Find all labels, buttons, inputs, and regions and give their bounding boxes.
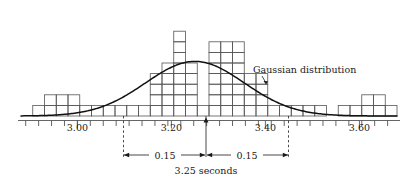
histogram-cell: [362, 95, 374, 106]
histogram-cell: [256, 105, 268, 116]
histogram-cell: [127, 105, 139, 116]
histogram-cell: [233, 95, 245, 106]
histogram-cell: [150, 84, 162, 95]
histogram-cell: [162, 105, 174, 116]
span-label-left: 0.15: [154, 150, 175, 161]
arrow-left-inner: [200, 153, 205, 158]
histogram-cell: [33, 105, 45, 116]
histogram-cell: [115, 105, 127, 116]
histogram-cell: [244, 74, 256, 85]
mean-marker-arrowhead: [204, 118, 209, 123]
histogram-cell: [221, 84, 233, 95]
histogram-cell: [233, 63, 245, 74]
histogram-cell: [374, 95, 386, 106]
histogram-cell: [174, 31, 186, 42]
histogram-cell: [268, 105, 280, 116]
histogram-cell: [162, 84, 174, 95]
x-axis-tick-labels: 3.00 3.20 3.40 3.60: [67, 122, 370, 133]
histogram-cell: [233, 84, 245, 95]
histogram-cell: [174, 105, 186, 116]
arrow-left-outer: [124, 153, 129, 158]
histogram-cell: [209, 42, 221, 53]
histogram-cell: [209, 95, 221, 106]
x-tick-label-320: 3.20: [161, 122, 182, 133]
histogram-cell: [350, 105, 362, 116]
histogram-cell: [233, 42, 245, 53]
center-value-label: 3.25 seconds: [175, 165, 238, 176]
histogram-cell: [362, 105, 374, 116]
histogram-cell: [244, 105, 256, 116]
histogram-cell: [233, 52, 245, 63]
histogram-cell: [186, 95, 198, 106]
histogram-cell: [186, 63, 198, 74]
histogram-cell: [338, 105, 350, 116]
histogram-cell: [174, 74, 186, 85]
histogram-cell: [385, 105, 397, 116]
histogram-cell: [45, 95, 57, 106]
arrow-right-outer: [283, 153, 288, 158]
histogram-cell: [174, 42, 186, 53]
histogram-cell: [221, 95, 233, 106]
histogram-cell: [209, 105, 221, 116]
histogram-cell: [374, 105, 386, 116]
figure-histogram-gaussian: 3.00 3.20 3.40 3.60 Gaussian distributio…: [0, 0, 416, 181]
histogram-cell: [162, 95, 174, 106]
chart-canvas: 3.00 3.20 3.40 3.60 Gaussian distributio…: [0, 0, 416, 181]
arrow-right-inner: [207, 153, 212, 158]
span-label-right: 0.15: [236, 150, 257, 161]
histogram-cell: [186, 74, 198, 85]
histogram-cell: [174, 84, 186, 95]
histogram-cell: [56, 95, 68, 106]
histogram-cell: [162, 74, 174, 85]
histogram-cell: [150, 95, 162, 106]
histogram-cell: [174, 52, 186, 63]
histogram-cell: [209, 74, 221, 85]
histogram-cell: [103, 105, 115, 116]
histogram-cell: [68, 95, 80, 106]
histogram-cell: [209, 52, 221, 63]
gaussian-callout: Gaussian distribution: [253, 64, 356, 85]
histogram-cell: [221, 52, 233, 63]
histogram-cell: [233, 105, 245, 116]
x-tick-label-300: 3.00: [67, 122, 88, 133]
histogram-cell: [221, 42, 233, 53]
x-tick-label-340: 3.40: [255, 122, 276, 133]
x-tick-label-360: 3.60: [349, 122, 370, 133]
histogram-cell: [256, 84, 268, 95]
histogram-cell: [186, 84, 198, 95]
histogram-cell: [150, 105, 162, 116]
histogram-cell: [174, 95, 186, 106]
mean-marker: [204, 118, 209, 123]
histogram-cell: [186, 105, 198, 116]
histogram-cell: [139, 105, 151, 116]
histogram-cell: [197, 105, 209, 116]
histogram-cell: [244, 95, 256, 106]
histogram-cell: [221, 105, 233, 116]
histogram-cell: [209, 84, 221, 95]
gaussian-curve-label: Gaussian distribution: [253, 64, 356, 75]
histogram-cell: [221, 74, 233, 85]
